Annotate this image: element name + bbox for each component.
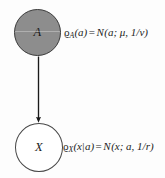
density-argument-a: (a) [74, 26, 87, 38]
distribution-params-x: (x; a, 1/r) [111, 140, 153, 152]
distribution-symbol-x: N [103, 140, 111, 152]
diagram-canvas: A X ϱA(a)=N(a; μ, 1/v) ϱX(x|a)=N(x; a, 1… [0, 0, 165, 178]
formula-node-a: ϱA(a)=N(a; μ, 1/v) [64, 26, 148, 41]
node-x[interactable]: X [15, 123, 63, 172]
formula-node-x: ϱX(x|a)=N(x; a, 1/r) [63, 140, 154, 155]
density-argument-right-x: a) [85, 140, 94, 152]
distribution-params-a: (a; μ, 1/v) [104, 26, 148, 38]
node-x-label: X [35, 141, 43, 154]
density-argument-left-x: (x [73, 140, 82, 152]
node-a-label: A [34, 26, 42, 39]
equals-sign-x: = [94, 140, 103, 152]
node-a[interactable]: A [14, 9, 61, 56]
